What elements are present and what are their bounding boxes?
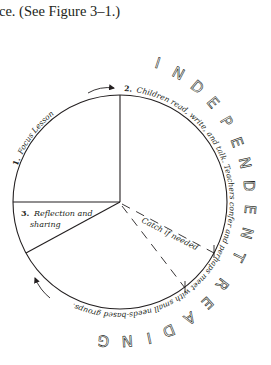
outer-letter: E xyxy=(227,135,247,150)
arrow-top-icon xyxy=(88,88,114,93)
segment-1-label: 1. Focus Lesson xyxy=(11,109,56,167)
outer-letter: N xyxy=(121,332,133,351)
outer-letter: D xyxy=(160,320,177,341)
segment-3-label: 3. Reflection and xyxy=(21,208,93,218)
outer-letter: E xyxy=(203,93,223,112)
outer-letter: N xyxy=(237,225,257,241)
outer-letter: A xyxy=(180,308,199,329)
outer-letter: G xyxy=(97,331,110,350)
outer-letter: E xyxy=(241,204,260,215)
dashed-line-lower xyxy=(122,206,185,288)
outer-letter: N xyxy=(169,63,187,84)
outer-letter: E xyxy=(198,293,217,313)
outer-letter: I xyxy=(153,54,163,72)
outer-letter: P xyxy=(216,113,236,130)
outer-letter: D xyxy=(240,180,258,192)
outer-letter: N xyxy=(235,156,255,171)
outer-letter: T xyxy=(228,247,249,265)
outer-letter: I xyxy=(145,329,153,348)
segment-3-label-line2: sharing xyxy=(30,220,61,229)
outer-letter: R xyxy=(212,274,233,293)
catch-if-needed-label: Catch if needed xyxy=(140,216,200,253)
independent-reading-cycle-diagram: 1. Focus Lesson 2. Children read, write,… xyxy=(0,0,271,365)
outer-letter: D xyxy=(187,77,207,98)
